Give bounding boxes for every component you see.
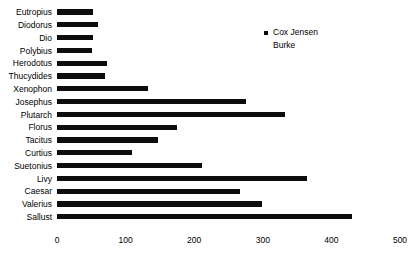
bar-chart: EutropiusDiodorusDioPolybiusHerodotusThu… (0, 0, 417, 256)
bar-sallust (57, 214, 352, 219)
legend-label: Burke (273, 41, 295, 50)
x-tick-label: 100 (119, 236, 133, 245)
filled-square-marker (264, 31, 268, 35)
bar-row: Valerius (57, 198, 400, 211)
bar-herodotus (57, 61, 107, 66)
bar-eutropius (57, 9, 93, 14)
bar-row: Eutropius (57, 6, 400, 19)
category-label-plutarch: Plutarch (0, 108, 52, 121)
bar-row: Curtius (57, 147, 400, 160)
legend-item-burke: Burke (264, 39, 384, 52)
bar-row: Herodotus (57, 57, 400, 70)
bar-florus (57, 125, 177, 130)
bar-diodorus (57, 22, 98, 27)
category-label-herodotus: Herodotus (0, 57, 52, 70)
bar-row: Tacitus (57, 134, 400, 147)
x-tick-label: 300 (256, 236, 270, 245)
x-axis: 0100200300400500 (57, 233, 400, 255)
bar-row: Caesar (57, 185, 400, 198)
bar-xenophon (57, 86, 148, 91)
category-label-curtius: Curtius (0, 147, 52, 160)
category-label-josephus: Josephus (0, 96, 52, 109)
bar-polybius (57, 48, 92, 53)
bar-caesar (57, 189, 240, 194)
category-label-florus: Florus (0, 121, 52, 134)
bar-valerius (57, 201, 262, 206)
x-tick-label: 0 (55, 236, 60, 245)
bar-row: Plutarch (57, 108, 400, 121)
bar-curtius (57, 150, 132, 155)
empty-square-marker (264, 44, 268, 48)
category-label-thucydides: Thucydides (0, 70, 52, 83)
bar-josephus (57, 99, 246, 104)
category-label-eutropius: Eutropius (0, 6, 52, 19)
bar-row: Thucydides (57, 70, 400, 83)
category-label-polybius: Polybius (0, 44, 52, 57)
bar-row: Xenophon (57, 83, 400, 96)
legend-item-cox-jensen: Cox Jensen (264, 26, 384, 39)
bar-suetonius (57, 163, 202, 168)
category-label-suetonius: Suetonius (0, 160, 52, 173)
bar-row: Suetonius (57, 160, 400, 173)
category-label-sallust: Sallust (0, 211, 52, 224)
category-label-dio: Dio (0, 32, 52, 45)
x-tick-label: 400 (324, 236, 338, 245)
x-tick-label: 200 (187, 236, 201, 245)
category-label-caesar: Caesar (0, 185, 52, 198)
bar-tacitus (57, 137, 158, 142)
bar-row: Josephus (57, 96, 400, 109)
category-label-livy: Livy (0, 172, 52, 185)
bar-dio (57, 35, 93, 40)
bar-livy (57, 176, 307, 181)
category-label-diodorus: Diodorus (0, 19, 52, 32)
chart-legend: Cox JensenBurke (264, 26, 384, 52)
bar-row: Florus (57, 121, 400, 134)
bar-thucydides (57, 73, 105, 78)
bar-row: Sallust (57, 211, 400, 224)
legend-label: Cox Jensen (273, 28, 318, 37)
category-label-valerius: Valerius (0, 198, 52, 211)
x-tick-label: 500 (393, 236, 407, 245)
bar-row: Livy (57, 172, 400, 185)
category-label-xenophon: Xenophon (0, 83, 52, 96)
category-label-tacitus: Tacitus (0, 134, 52, 147)
bar-plutarch (57, 112, 285, 117)
